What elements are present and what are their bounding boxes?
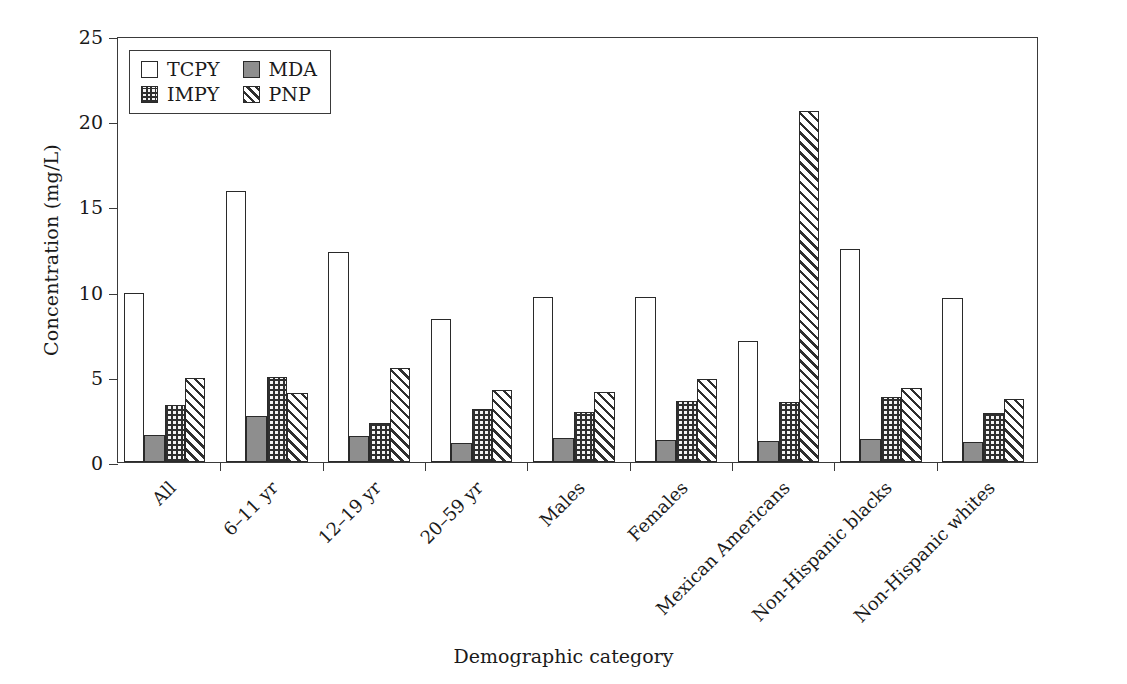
bar-group-bars	[328, 38, 410, 462]
bar-mda-3[interactable]	[349, 436, 369, 462]
bar-group	[840, 38, 922, 462]
legend-swatch-mda	[243, 61, 260, 78]
bar-group	[431, 38, 513, 462]
legend-swatch-tcpy	[141, 61, 158, 78]
bar-group-bars	[738, 38, 820, 462]
bar-group	[328, 38, 410, 462]
bar-mda-2[interactable]	[246, 416, 266, 462]
bar-impy-4[interactable]	[472, 409, 492, 462]
bar-group-bars	[431, 38, 513, 462]
bar-group	[942, 38, 1024, 462]
bar-impy-2[interactable]	[267, 377, 287, 462]
bar-mda-4[interactable]	[451, 443, 471, 462]
bar-pnp-5[interactable]	[594, 392, 614, 462]
bar-mda-9[interactable]	[963, 442, 983, 462]
y-axis-tick: 5	[109, 379, 118, 380]
bar-tcpy-3[interactable]	[328, 252, 348, 462]
bar-tcpy-6[interactable]	[635, 297, 655, 462]
x-axis-tick	[323, 462, 324, 471]
bar-impy-7[interactable]	[779, 402, 799, 462]
bar-pnp-1[interactable]	[185, 378, 205, 462]
y-axis-tick-label: 20	[79, 111, 103, 133]
bar-pnp-2[interactable]	[287, 393, 307, 462]
y-axis-title: Concentration (mg/L)	[34, 37, 68, 463]
x-axis-tick	[630, 462, 631, 471]
bar-mda-8[interactable]	[860, 439, 880, 462]
x-axis-tick	[732, 462, 733, 471]
y-axis-tick: 20	[109, 123, 118, 124]
legend-item-mda[interactable]: MDA	[243, 58, 317, 80]
y-axis-tick-label: 10	[79, 282, 103, 304]
bar-tcpy-8[interactable]	[840, 249, 860, 462]
bar-impy-9[interactable]	[983, 413, 1003, 462]
bar-tcpy-1[interactable]	[124, 293, 144, 462]
legend-item-label: IMPY	[167, 83, 219, 105]
bar-impy-8[interactable]	[881, 397, 901, 462]
bar-pnp-6[interactable]	[697, 379, 717, 462]
bar-pnp-8[interactable]	[901, 388, 921, 462]
x-axis-tick	[527, 462, 528, 471]
bar-group-bars	[635, 38, 717, 462]
x-axis-tick	[834, 462, 835, 471]
bar-impy-6[interactable]	[676, 401, 696, 462]
bar-group	[738, 38, 820, 462]
bar-group-bars	[533, 38, 615, 462]
x-axis-category-labels: All6–11 yr12–19 yr20–59 yrMalesFemalesMe…	[117, 477, 1038, 627]
bar-group-bars	[942, 38, 1024, 462]
x-axis-title: Demographic category	[0, 645, 1127, 667]
x-axis-category-label: Females	[623, 477, 691, 545]
x-axis-category-label: 12–19 yr	[314, 477, 385, 548]
bar-mda-1[interactable]	[144, 435, 164, 462]
bar-impy-1[interactable]	[165, 405, 185, 462]
bar-group	[635, 38, 717, 462]
bar-impy-3[interactable]	[369, 423, 389, 462]
x-axis-tick	[425, 462, 426, 471]
x-axis-tick	[220, 462, 221, 471]
bar-impy-5[interactable]	[574, 412, 594, 462]
x-axis-category-label: 6–11 yr	[219, 477, 282, 540]
bar-pnp-3[interactable]	[390, 368, 410, 462]
bar-tcpy-5[interactable]	[533, 297, 553, 462]
x-axis-category-label: Males	[536, 477, 590, 531]
bar-mda-6[interactable]	[656, 440, 676, 462]
y-axis-tick-label: 0	[91, 452, 103, 474]
bar-tcpy-9[interactable]	[942, 298, 962, 462]
bar-mda-5[interactable]	[553, 438, 573, 462]
chart-legend: TCPYMDAIMPYPNP	[129, 50, 331, 114]
bar-group	[533, 38, 615, 462]
y-axis-tick: 15	[109, 208, 118, 209]
bar-pnp-9[interactable]	[1004, 399, 1024, 462]
bar-tcpy-2[interactable]	[226, 191, 246, 462]
bar-mda-7[interactable]	[758, 441, 778, 462]
x-axis-category-label: 20–59 yr	[416, 477, 487, 548]
bar-pnp-4[interactable]	[492, 390, 512, 462]
bar-tcpy-7[interactable]	[738, 341, 758, 462]
legend-item-tcpy[interactable]: TCPY	[141, 58, 220, 80]
legend-item-label: PNP	[269, 83, 311, 105]
y-axis-tick-label: 5	[91, 367, 103, 389]
bar-pnp-7[interactable]	[799, 111, 819, 462]
bar-tcpy-4[interactable]	[431, 319, 451, 462]
y-axis-tick: 0	[109, 464, 118, 465]
y-axis-tick-label: 25	[79, 26, 103, 48]
legend-item-pnp[interactable]: PNP	[243, 83, 317, 105]
x-axis-tick	[937, 462, 938, 471]
legend-swatch-pnp	[243, 86, 260, 103]
legend-item-label: MDA	[269, 58, 317, 80]
bar-chart-figure: Concentration (mg/L) 0510152025 All6–11 …	[0, 0, 1127, 684]
x-axis-category-label: All	[148, 477, 180, 509]
legend-item-label: TCPY	[167, 58, 220, 80]
y-axis-tick: 25	[109, 38, 118, 39]
legend-item-impy[interactable]: IMPY	[141, 83, 220, 105]
bar-group-bars	[840, 38, 922, 462]
y-axis-tick-label: 15	[79, 196, 103, 218]
y-axis-tick: 10	[109, 294, 118, 295]
legend-swatch-impy	[141, 86, 158, 103]
